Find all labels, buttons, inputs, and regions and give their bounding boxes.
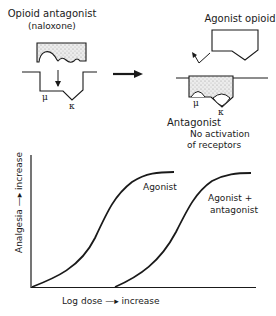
diagram-graphics xyxy=(0,0,276,316)
opioid-antagonist-diagram: Opioid antagonist (naloxone) μ κ Agonist… xyxy=(0,0,276,316)
antagonist-label: Antagonist xyxy=(167,118,221,128)
naloxone-subtitle: (naloxone) xyxy=(28,22,76,31)
graph-axes xyxy=(31,155,256,288)
agonist-plus-antagonist-curve xyxy=(115,173,251,287)
no-activation-line2: of receptors xyxy=(187,141,241,150)
naloxone-molecule xyxy=(37,43,86,62)
agonist-antagonist-label-line1: Agonist + xyxy=(208,194,252,203)
agonist-curve-label: Agonist xyxy=(143,183,177,192)
mu-label-right: μ xyxy=(193,99,199,108)
kappa-label-right: κ xyxy=(218,108,224,117)
agonist-opioid-label: Agonist opioid xyxy=(204,14,275,24)
y-axis-label: Analgesia —▸ increase xyxy=(15,152,24,253)
receptor-empty xyxy=(22,72,97,100)
no-activation-line1: No activation xyxy=(190,130,250,139)
transition-arrow-icon xyxy=(113,70,143,78)
kappa-label-left: κ xyxy=(69,102,75,111)
repelled-arrow-icon xyxy=(192,52,210,63)
agonist-antagonist-label-line2: antagonist xyxy=(210,206,258,215)
receptor-blocked xyxy=(176,76,268,107)
mu-label-left: μ xyxy=(42,93,48,102)
antagonist-title: Opioid antagonist xyxy=(8,9,97,19)
x-axis-label: Log dose —▸ increase xyxy=(62,297,160,306)
agonist-opioid-molecule xyxy=(212,30,258,60)
